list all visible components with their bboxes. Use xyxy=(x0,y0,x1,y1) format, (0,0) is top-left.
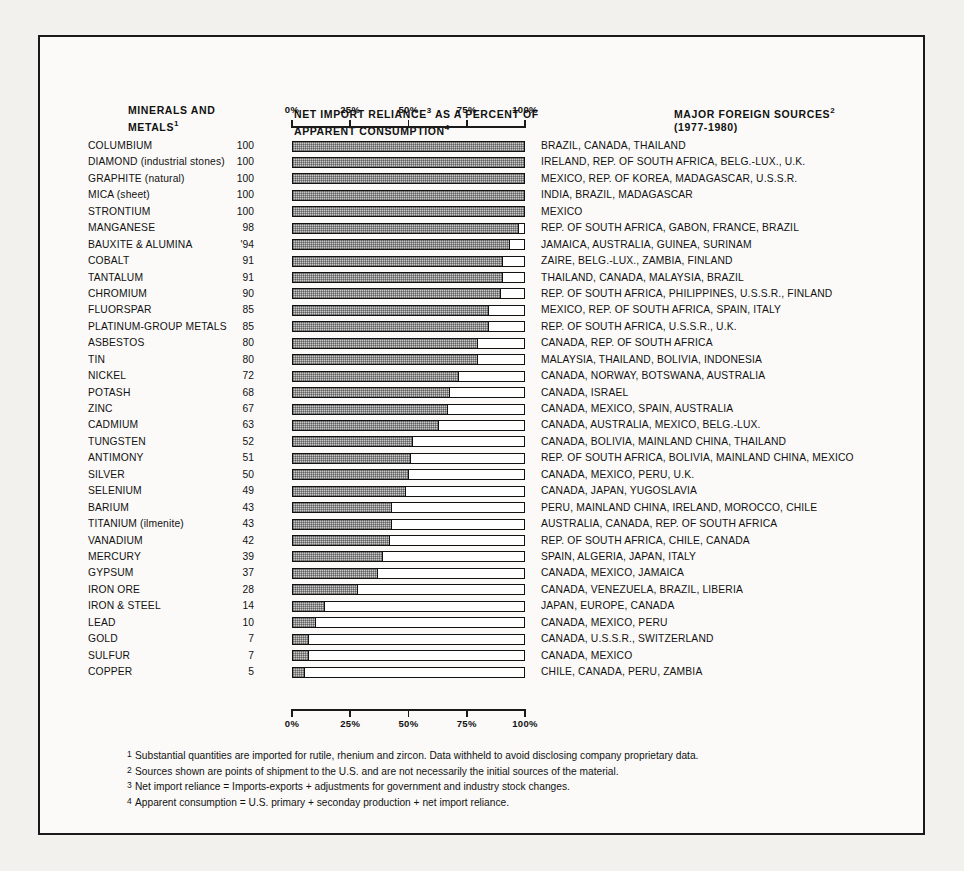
reliance-value: 49 xyxy=(206,485,254,496)
reliance-value: 28 xyxy=(206,584,254,595)
mineral-name: COLUMBIUM xyxy=(88,140,152,151)
reliance-value: 63 xyxy=(206,419,254,430)
chart-row: MANGANESE98REP. OF SOUTH AFRICA, GABON, … xyxy=(0,221,964,237)
foreign-sources: REP. OF SOUTH AFRICA, GABON, FRANCE, BRA… xyxy=(541,222,799,233)
footnote-text: Net import reliance = Imports-exports + … xyxy=(135,781,570,792)
reliance-value: 85 xyxy=(206,321,254,332)
reliance-value: 90 xyxy=(206,288,254,299)
mineral-name: ZINC xyxy=(88,403,113,414)
bar-fill xyxy=(293,224,519,233)
mineral-name: GRAPHITE (natural) xyxy=(88,173,185,184)
bar-fill xyxy=(293,158,524,167)
axis-tick-label: 50% xyxy=(389,104,429,115)
column-header-minerals-line2: METALS xyxy=(128,121,174,133)
bar-track xyxy=(292,617,525,628)
bar-fill xyxy=(293,339,478,348)
mineral-name: LEAD xyxy=(88,617,116,628)
bar-fill xyxy=(293,437,413,446)
chart-row: IRON ORE28CANADA, VENEZUELA, BRAZIL, LIB… xyxy=(0,583,964,599)
axis-top xyxy=(292,118,525,134)
bar-track xyxy=(292,288,525,299)
chart-row: TUNGSTEN52CANADA, BOLIVIA, MAINLAND CHIN… xyxy=(0,435,964,451)
bar-track xyxy=(292,371,525,382)
foreign-sources: IRELAND, REP. OF SOUTH AFRICA, BELG.-LUX… xyxy=(541,156,805,167)
column-header-minerals-line1: MINERALS AND xyxy=(128,104,215,116)
foreign-sources: CANADA, ISRAEL xyxy=(541,387,628,398)
axis-tick xyxy=(466,120,468,128)
foreign-sources: CHILE, CANADA, PERU, ZAMBIA xyxy=(541,666,702,677)
reliance-value: 50 xyxy=(206,469,254,480)
mineral-name: NICKEL xyxy=(88,370,126,381)
axis-tick-label: 100% xyxy=(505,718,545,729)
footnote-marker: 4 xyxy=(127,794,132,810)
footnote-ref-2: 2 xyxy=(830,106,835,115)
chart-row: MICA (sheet)100INDIA, BRAZIL, MADAGASCAR xyxy=(0,188,964,204)
mineral-name: IRON & STEEL xyxy=(88,600,161,611)
bar-fill xyxy=(293,191,524,200)
column-header-sources-years: (1977-1980) xyxy=(674,121,738,133)
axis-tick xyxy=(291,120,293,128)
bar-fill xyxy=(293,306,489,315)
mineral-name: SULFUR xyxy=(88,650,130,661)
axis-tick xyxy=(349,120,351,128)
chart-row: TIN80MALAYSIA, THAILAND, BOLIVIA, INDONE… xyxy=(0,353,964,369)
bar-fill xyxy=(293,240,510,249)
column-header-sources-line1: MAJOR FOREIGN SOURCES xyxy=(674,108,830,120)
mineral-name: MERCURY xyxy=(88,551,141,562)
bar-fill xyxy=(293,536,390,545)
foreign-sources: CANADA, NORWAY, BOTSWANA, AUSTRALIA xyxy=(541,370,765,381)
bar-track xyxy=(292,650,525,661)
reliance-value: 85 xyxy=(206,304,254,315)
bar-track xyxy=(292,387,525,398)
foreign-sources: AUSTRALIA, CANADA, REP. OF SOUTH AFRICA xyxy=(541,518,777,529)
axis-tick xyxy=(524,709,526,717)
bar-fill xyxy=(293,569,378,578)
mineral-name: MICA (sheet) xyxy=(88,189,150,200)
reliance-value: 72 xyxy=(206,370,254,381)
axis-tick-label: 50% xyxy=(389,718,429,729)
axis-tick xyxy=(408,120,410,128)
bar-track xyxy=(292,321,525,332)
axis-tick-labels-bottom: 0%25%50%75%100% xyxy=(272,718,545,730)
chart-row: ANTIMONY51REP. OF SOUTH AFRICA, BOLIVIA,… xyxy=(0,451,964,467)
bar-track xyxy=(292,601,525,612)
foreign-sources: MALAYSIA, THAILAND, BOLIVIA, INDONESIA xyxy=(541,354,762,365)
footnote-text: Substantial quantities are imported for … xyxy=(135,750,698,761)
axis-tick-label: 25% xyxy=(330,104,370,115)
bar-fill xyxy=(293,289,501,298)
foreign-sources: CANADA, VENEZUELA, BRAZIL, LIBERIA xyxy=(541,584,743,595)
axis-tick-label: 25% xyxy=(330,718,370,729)
mineral-name: FLUORSPAR xyxy=(88,304,152,315)
bar-fill xyxy=(293,470,409,479)
foreign-sources: REP. OF SOUTH AFRICA, U.S.S.R., U.K. xyxy=(541,321,737,332)
bar-fill xyxy=(293,174,524,183)
bar-track xyxy=(292,436,525,447)
footnote-marker: 2 xyxy=(127,763,132,779)
footnote-text: Apparent consumption = U.S. primary + se… xyxy=(135,797,509,808)
axis-bottom xyxy=(292,703,525,719)
foreign-sources: CANADA, JAPAN, YUGOSLAVIA xyxy=(541,485,697,496)
foreign-sources: CANADA, U.S.S.R., SWITZERLAND xyxy=(541,633,714,644)
bar-fill xyxy=(293,651,309,660)
mineral-name: TIN xyxy=(88,354,105,365)
reliance-value: 14 xyxy=(206,600,254,611)
chart-row: CHROMIUM90REP. OF SOUTH AFRICA, PHILIPPI… xyxy=(0,287,964,303)
bar-track xyxy=(292,584,525,595)
foreign-sources: CANADA, MEXICO xyxy=(541,650,632,661)
bar-fill xyxy=(293,142,524,151)
footnote: 3Net import reliance = Imports-exports +… xyxy=(128,779,908,795)
chart-row: DIAMOND (industrial stones)100IRELAND, R… xyxy=(0,155,964,171)
foreign-sources: ZAIRE, BELG.-LUX., ZAMBIA, FINLAND xyxy=(541,255,733,266)
bar-fill xyxy=(293,585,358,594)
foreign-sources: JAMAICA, AUSTRALIA, GUINEA, SURINAM xyxy=(541,239,752,250)
foreign-sources: SPAIN, ALGERIA, JAPAN, ITALY xyxy=(541,551,696,562)
bar-fill xyxy=(293,668,305,677)
footnote-text: Sources shown are points of shipment to … xyxy=(135,766,619,777)
reliance-value: 39 xyxy=(206,551,254,562)
foreign-sources: THAILAND, CANADA, MALAYSIA, BRAZIL xyxy=(541,272,744,283)
foreign-sources: MEXICO, REP. OF KOREA, MADAGASCAR, U.S.S… xyxy=(541,173,797,184)
bar-track xyxy=(292,157,525,168)
bar-fill xyxy=(293,421,439,430)
reliance-value: 43 xyxy=(206,518,254,529)
foreign-sources: CANADA, MEXICO, JAMAICA xyxy=(541,567,684,578)
